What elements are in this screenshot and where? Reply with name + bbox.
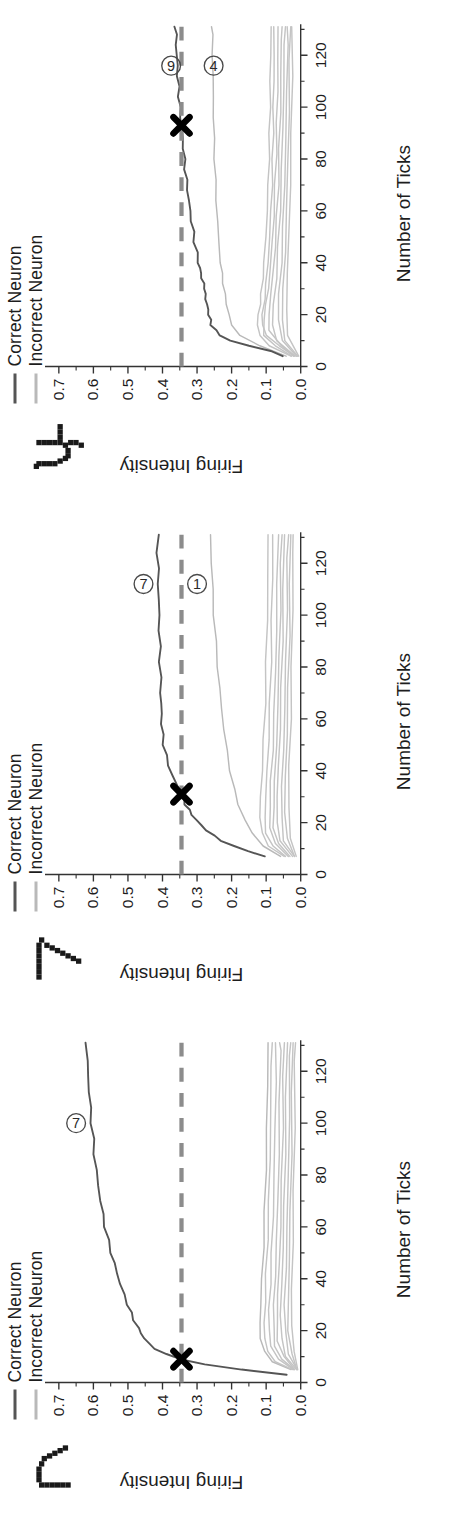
svg-text:40: 40 (312, 254, 329, 271)
svg-text:120: 120 (312, 1058, 329, 1084)
legend-line-correct-icon (13, 373, 16, 403)
svg-text:0.6: 0.6 (84, 1394, 101, 1416)
panel-2: Correct Neuron Incorrect Neuron 02040608… (0, 1016, 463, 1523)
plot-svg-0: 0204060801001200.00.10.20.30.40.50.60.79… (36, 15, 336, 411)
svg-text:0.3: 0.3 (188, 378, 205, 400)
svg-text:80: 80 (312, 658, 329, 675)
svg-text:0: 0 (312, 870, 329, 879)
svg-text:0.7: 0.7 (50, 1394, 67, 1416)
svg-text:100: 100 (312, 94, 329, 120)
legend-row-correct-0: Correct Neuron (4, 234, 25, 403)
x-axis-title-1: Number of Ticks (392, 523, 414, 919)
plot-area-1: 0204060801001200.00.10.20.30.40.50.60.77… (36, 523, 336, 919)
svg-text:0.1: 0.1 (257, 378, 274, 400)
plot-svg-1: 0204060801001200.00.10.20.30.40.50.60.77… (36, 523, 336, 919)
svg-text:0.6: 0.6 (84, 886, 101, 908)
legend-label-correct: Correct Neuron (6, 1261, 24, 1382)
svg-text:0.3: 0.3 (188, 886, 205, 908)
legend-line-correct-icon (13, 881, 16, 911)
svg-text:0.6: 0.6 (84, 378, 101, 400)
svg-text:9: 9 (167, 57, 175, 73)
svg-text:80: 80 (312, 150, 329, 167)
svg-text:0.5: 0.5 (119, 1394, 136, 1416)
svg-text:60: 60 (312, 202, 329, 219)
x-axis-title-0: Number of Ticks (392, 15, 414, 411)
plot-area-0: 0204060801001200.00.10.20.30.40.50.60.79… (36, 15, 336, 411)
svg-text:0.3: 0.3 (188, 1394, 205, 1416)
svg-text:7: 7 (72, 1115, 80, 1131)
svg-text:40: 40 (312, 762, 329, 779)
x-axis-title-2: Number of Ticks (392, 1031, 414, 1427)
svg-text:100: 100 (312, 1110, 329, 1136)
svg-text:120: 120 (312, 42, 329, 68)
svg-text:0.7: 0.7 (50, 886, 67, 908)
legend-row-correct-2: Correct Neuron (4, 1250, 25, 1419)
svg-text:0.5: 0.5 (119, 886, 136, 908)
svg-text:0: 0 (312, 362, 329, 371)
svg-text:40: 40 (312, 1270, 329, 1287)
panel-0: Correct Neuron Incorrect Neuron 02040608… (0, 0, 463, 507)
svg-text:0: 0 (312, 1378, 329, 1387)
figure-three-panel-firing-intensity: Correct Neuron Incorrect Neuron 02040608… (0, 0, 463, 1523)
legend-line-correct-icon (13, 1389, 16, 1419)
svg-text:0.1: 0.1 (257, 886, 274, 908)
y-axis-title-2: Firing Intensity (31, 1470, 331, 1492)
svg-text:120: 120 (312, 550, 329, 576)
svg-text:20: 20 (312, 1322, 329, 1339)
svg-text:0.5: 0.5 (119, 378, 136, 400)
plot-svg-2: 0204060801001200.00.10.20.30.40.50.60.77 (36, 1031, 336, 1427)
panel-1-rotated-content: Correct Neuron Incorrect Neuron 02040608… (0, 508, 463, 1015)
svg-text:60: 60 (312, 1218, 329, 1235)
svg-text:100: 100 (312, 602, 329, 628)
legend-label-correct: Correct Neuron (6, 245, 24, 366)
svg-text:7: 7 (139, 576, 147, 592)
svg-text:0.2: 0.2 (222, 1394, 239, 1416)
svg-text:20: 20 (312, 814, 329, 831)
svg-text:0.2: 0.2 (222, 886, 239, 908)
panel-1: Correct Neuron Incorrect Neuron 02040608… (0, 508, 463, 1015)
y-axis-title-0: Firing Intensity (31, 454, 331, 476)
svg-text:0.2: 0.2 (222, 378, 239, 400)
panel-0-rotated-content: Correct Neuron Incorrect Neuron 02040608… (0, 0, 463, 507)
svg-text:0.1: 0.1 (257, 1394, 274, 1416)
svg-text:0.7: 0.7 (50, 378, 67, 400)
svg-text:1: 1 (193, 576, 201, 592)
svg-text:0.0: 0.0 (291, 886, 308, 908)
svg-text:0.0: 0.0 (291, 1394, 308, 1416)
svg-text:0.4: 0.4 (153, 378, 170, 400)
svg-text:0.0: 0.0 (291, 378, 308, 400)
svg-text:20: 20 (312, 306, 329, 323)
legend-row-correct-1: Correct Neuron (4, 742, 25, 911)
svg-text:0.4: 0.4 (153, 886, 170, 908)
y-axis-title-1: Firing Intensity (31, 962, 331, 984)
svg-text:80: 80 (312, 1166, 329, 1183)
svg-text:60: 60 (312, 710, 329, 727)
svg-text:0.4: 0.4 (153, 1394, 170, 1416)
plot-area-2: 0204060801001200.00.10.20.30.40.50.60.77 (36, 1031, 336, 1427)
panel-2-rotated-content: Correct Neuron Incorrect Neuron 02040608… (0, 1016, 463, 1523)
legend-label-correct: Correct Neuron (6, 753, 24, 874)
svg-text:4: 4 (209, 57, 217, 73)
